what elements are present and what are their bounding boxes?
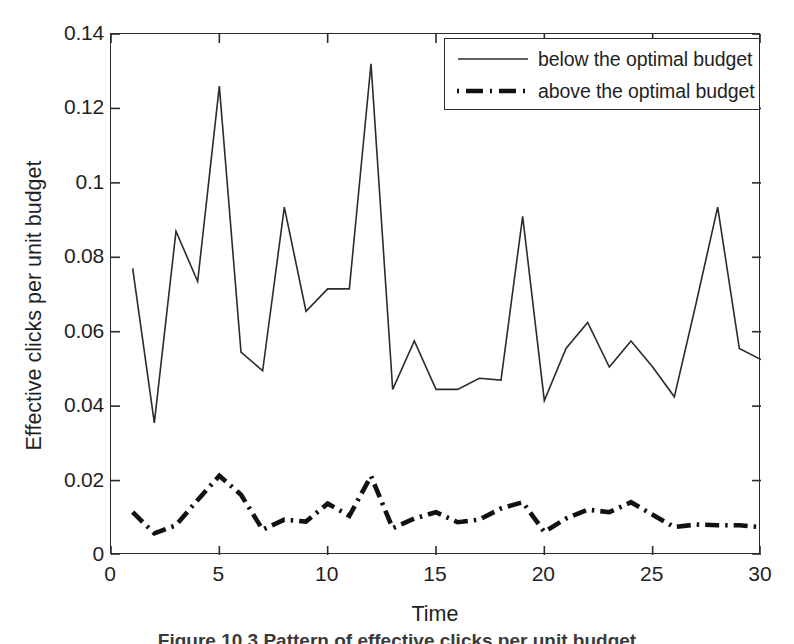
series-line-1 (133, 476, 761, 534)
figure-caption: Figure 10.3 Pattern of effective clicks … (0, 630, 794, 644)
x-axis-title: Time (110, 602, 760, 627)
x-tick-label: 20 (532, 562, 555, 586)
legend-entry-above: above the optimal budget (445, 75, 759, 107)
y-tick-label: 0 (93, 542, 104, 566)
y-tick-label: 0.14 (64, 21, 104, 45)
solid-line-sample-icon (454, 44, 532, 74)
x-tick-label: 0 (104, 562, 116, 586)
y-tick-label: 0.12 (64, 95, 104, 119)
legend-label-above: above the optimal budget (538, 80, 755, 103)
x-axis-tick-labels: 051015202530 (110, 562, 760, 592)
figure-container: 00.020.040.060.080.10.120.14 Effective c… (0, 0, 794, 644)
y-tick-label: 0.1 (75, 170, 104, 194)
y-axis-title: Effective clicks per unit budget (22, 106, 47, 506)
y-axis-tick-labels: 00.020.040.060.080.10.120.14 (0, 33, 104, 554)
series-line-0 (133, 64, 761, 423)
y-tick-label: 0.08 (64, 244, 104, 268)
y-tick-label: 0.04 (64, 393, 104, 417)
plot-area (110, 33, 760, 554)
x-tick-label: 5 (212, 562, 224, 586)
y-tick-label: 0.06 (64, 319, 104, 343)
chart-legend: below the optimal budget above the optim… (444, 38, 760, 110)
plot-svg (111, 34, 761, 555)
legend-label-below: below the optimal budget (538, 48, 752, 71)
dashdot-line-sample-icon (454, 76, 532, 106)
x-tick-label: 10 (315, 562, 338, 586)
legend-entry-below: below the optimal budget (445, 43, 759, 75)
x-tick-label: 25 (640, 562, 663, 586)
x-tick-label: 15 (423, 562, 446, 586)
y-tick-label: 0.02 (64, 468, 104, 492)
x-tick-label: 30 (748, 562, 771, 586)
